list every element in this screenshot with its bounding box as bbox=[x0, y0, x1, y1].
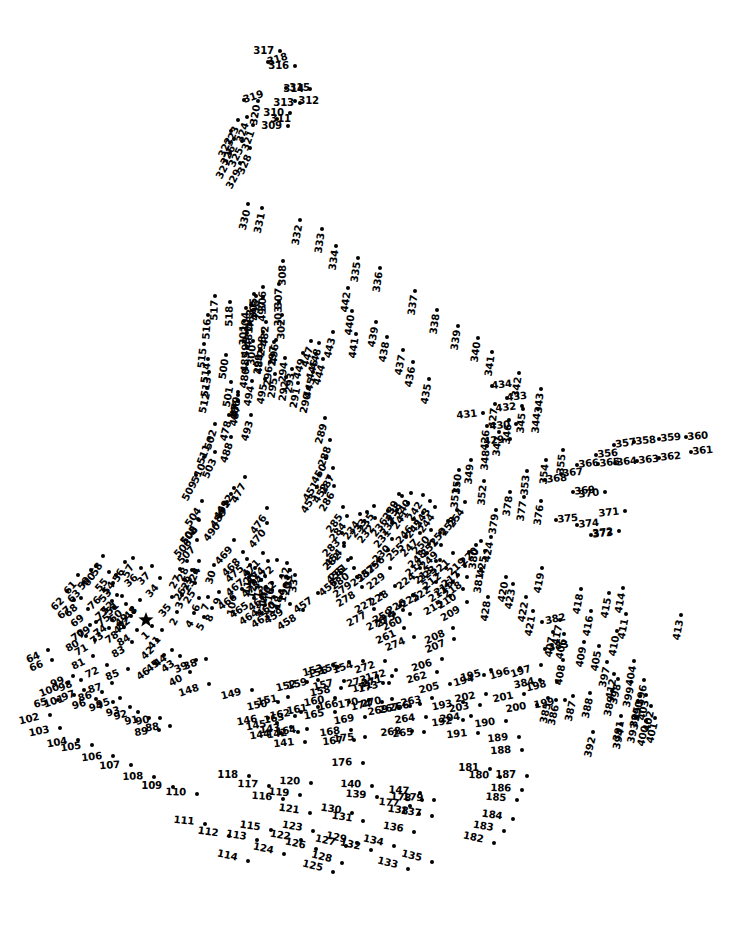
connect-the-dots-page: 1234567891011121314151617181920212223242… bbox=[0, 0, 749, 947]
page-background bbox=[0, 0, 749, 947]
dot-canvas: 1234567891011121314151617181920212223242… bbox=[0, 0, 749, 947]
